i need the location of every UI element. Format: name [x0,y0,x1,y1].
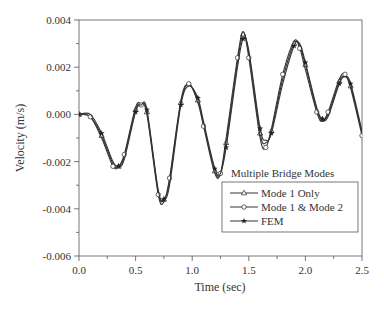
y-tick-label: -0.006 [43,250,72,262]
legend-entry-label: FEM [261,215,284,227]
x-tick-label: 1.0 [185,264,199,276]
y-tick-label: 0.002 [46,61,71,73]
legend: Mode 1 OnlyMode 1 & Mode 2FEM [222,182,358,232]
y-axis-label: Velocity (m/s) [13,104,27,172]
x-tick-label: 1.5 [242,264,256,276]
y-tick-label: -0.004 [43,203,72,215]
chart-svg: 0.00.51.01.52.02.50.0040.0020.000-0.002-… [0,0,384,311]
axes: 0.00.51.01.52.02.50.0040.0020.000-0.002-… [43,14,370,276]
x-tick-label: 2.0 [299,264,313,276]
legend-entry-label: Mode 1 Only [261,187,320,199]
y-tick-label: -0.002 [43,156,71,168]
y-tick-label: 0.004 [46,14,71,26]
x-tick-label: 2.5 [355,264,369,276]
legend-title: Multiple Bridge Modes [231,167,334,179]
x-tick-label: 0.5 [129,264,143,276]
x-axis-label: Time (sec) [194,280,245,294]
x-tick-label: 0.0 [72,264,86,276]
velocity-time-chart: 0.00.51.01.52.02.50.0040.0020.000-0.002-… [0,0,384,311]
y-tick-label: 0.000 [46,108,71,120]
legend-entry-label: Mode 1 & Mode 2 [261,201,343,213]
